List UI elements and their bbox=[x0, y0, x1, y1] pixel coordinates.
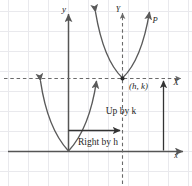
up-by-k-label: Up by k bbox=[106, 106, 137, 116]
y-axis-original-label: y bbox=[61, 4, 66, 14]
vertex-coordinates-label: (h, k) bbox=[129, 81, 148, 91]
x-axis-shifted-label: X bbox=[172, 77, 179, 87]
parabola-translation-figure: y x Y X P (h, k) Up by k Right by h bbox=[0, 0, 192, 186]
right-by-h-label: Right by h bbox=[78, 137, 118, 147]
vertex-point-marker bbox=[120, 76, 124, 80]
parabola-p-label: P bbox=[151, 15, 157, 25]
figure-canvas: y x Y X P (h, k) Up by k Right by h bbox=[0, 0, 192, 186]
x-axis-original-label: x bbox=[173, 151, 178, 160]
